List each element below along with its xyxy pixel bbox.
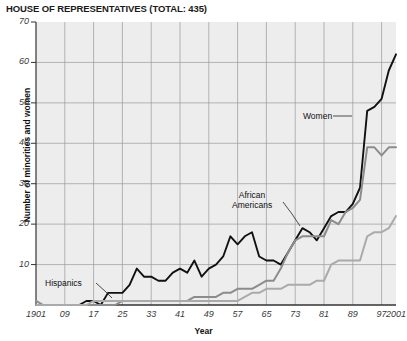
x-tick-label-65: 65 (251, 309, 281, 319)
y-tick-label-30: 30 (11, 178, 29, 188)
y-tick-label-70: 70 (11, 16, 29, 26)
annotation-women: Women (303, 111, 332, 121)
x-tick-label-81: 81 (309, 309, 339, 319)
annotation-hispanics: Hispanics (45, 278, 82, 288)
plot-background (36, 22, 396, 305)
x-axis-title: Year (0, 326, 407, 336)
x-tick-label-33: 33 (136, 309, 166, 319)
x-tick-label-73: 73 (280, 309, 310, 319)
chart-plot-area (0, 0, 407, 341)
y-tick-label-20: 20 (11, 218, 29, 228)
y-tick-label-40: 40 (11, 137, 29, 147)
x-tick-label-2001: 2001 (381, 309, 407, 319)
x-tick-label-09: 09 (50, 309, 80, 319)
x-tick-label-41: 41 (165, 309, 195, 319)
annotation-african-americans: African Americans (232, 190, 272, 210)
x-tick-label-17: 17 (79, 309, 109, 319)
x-tick-label-49: 49 (194, 309, 224, 319)
x-tick-label-1901: 1901 (21, 309, 51, 319)
y-tick-label-50: 50 (11, 97, 29, 107)
y-tick-label-60: 60 (11, 56, 29, 66)
annotation-african-americans-line2: Americans (232, 200, 272, 210)
annotation-african-americans-line1: African (232, 190, 272, 200)
x-tick-label-25: 25 (107, 309, 137, 319)
x-tick-label-57: 57 (223, 309, 253, 319)
y-tick-label-10: 10 (11, 259, 29, 269)
chart-figure: HOUSE OF REPRESENTATIVES (TOTAL: 435) (0, 0, 407, 341)
x-tick-label-89: 89 (338, 309, 368, 319)
